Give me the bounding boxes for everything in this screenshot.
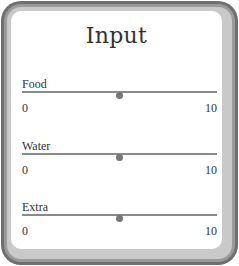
slider-max-label: 10 [205, 163, 217, 178]
slider-water[interactable]: Water 0 10 [22, 139, 217, 179]
slider-max-label: 10 [205, 224, 217, 239]
slider-thumb[interactable] [116, 215, 123, 222]
slider-thumb[interactable] [116, 154, 123, 161]
slider-min-label: 0 [22, 101, 28, 116]
slider-extra[interactable]: Extra 0 10 [22, 200, 217, 240]
panel-title: Input [11, 23, 222, 48]
input-panel-frame: Input Food 0 10 Water 0 10 Extra 0 10 [1, 1, 238, 265]
slider-food[interactable]: Food 0 10 [22, 77, 217, 117]
slider-label: Food [22, 77, 47, 92]
slider-max-label: 10 [205, 101, 217, 116]
slider-label: Extra [22, 200, 48, 215]
input-panel: Input Food 0 10 Water 0 10 Extra 0 10 [11, 11, 222, 249]
slider-min-label: 0 [22, 163, 28, 178]
slider-label: Water [22, 139, 50, 154]
slider-min-label: 0 [22, 224, 28, 239]
slider-thumb[interactable] [116, 92, 123, 99]
